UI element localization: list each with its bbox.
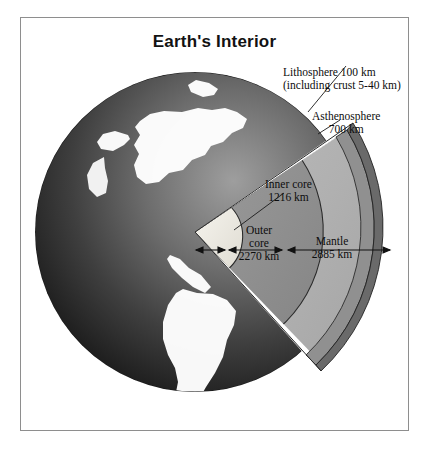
label-mantle-line1: Mantle [297,235,367,248]
label-asthenosphere: Asthenosphere 700 km [312,110,380,136]
label-lithosphere-line1: Lithosphere 100 km [283,66,401,79]
label-inner-core: Inner core 1216 km [265,178,312,204]
label-lithosphere-line2: (including crust 5-40 km) [283,79,401,92]
label-asthenosphere-line2: 700 km [312,123,380,136]
label-outer-core-line1: Outer [227,224,291,237]
label-asthenosphere-line1: Asthenosphere [312,110,380,123]
earth-interior-figure: Earth's Interior [0,0,429,455]
label-lithosphere: Lithosphere 100 km (including crust 5-40… [283,66,401,92]
label-outer-core-line2: core [227,237,291,250]
label-outer-core-line3: 2270 km [227,250,291,263]
label-mantle-line2: 2885 km [297,248,367,261]
label-mantle: Mantle 2885 km [297,235,367,261]
label-outer-core: Outer core 2270 km [227,224,291,263]
label-inner-core-line1: Inner core [265,178,312,191]
label-inner-core-line2: 1216 km [265,191,312,204]
